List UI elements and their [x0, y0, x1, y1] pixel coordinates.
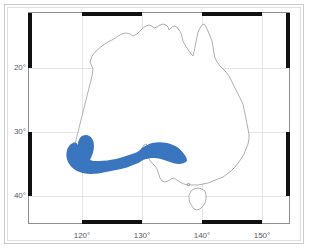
frame-segment-top-1 — [82, 12, 142, 16]
axis-label-latitude-30: 30° — [4, 127, 26, 136]
axis-label-longitude-140: 140° — [187, 231, 217, 240]
axis-label-longitude-120: 120° — [67, 231, 97, 240]
graticule-frame — [28, 12, 290, 224]
axis-label-longitude-130: 130° — [127, 231, 157, 240]
frame-segment-right-1 — [286, 13, 290, 68]
frame-segment-bottom-2 — [202, 220, 262, 224]
axis-label-latitude-20: 20° — [4, 63, 26, 72]
frame-segment-right-2 — [286, 132, 290, 196]
frame-segment-top-2 — [202, 12, 262, 16]
distribution-map-figure: 20° 30° 40° 120° 130° 140° 150° — [0, 0, 310, 249]
axis-label-latitude-40: 40° — [4, 191, 26, 200]
frame-segment-left-1 — [28, 13, 32, 68]
frame-segment-left-2 — [28, 132, 32, 196]
frame-segment-bottom-1 — [82, 220, 142, 224]
axis-label-longitude-150: 150° — [247, 231, 277, 240]
